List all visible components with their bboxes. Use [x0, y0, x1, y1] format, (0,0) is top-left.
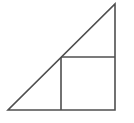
figure-canvas — [0, 0, 134, 123]
geometry-diagram — [0, 0, 134, 123]
